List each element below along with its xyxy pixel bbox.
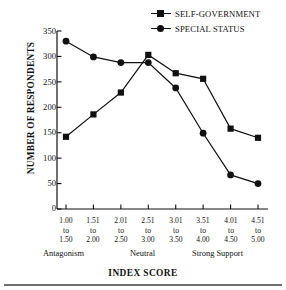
data-point [63,134,69,140]
chart-figure: SELF-GOVERNMENT SPECIAL STATUS NUMBER OF… [0,0,286,290]
category-label-antagonism: Antagonism [43,249,84,258]
data-point [200,130,207,137]
data-point [173,70,179,76]
data-point [145,52,151,58]
data-point [255,135,261,141]
data-point [117,59,124,66]
category-label-strong-support: Strong Support [192,249,243,258]
series-self-government [63,52,261,141]
data-point [255,180,262,187]
data-point [227,126,233,132]
category-label-neutral: Neutral [130,249,155,258]
x-axis-title: INDEX SCORE [0,268,286,278]
plot-area [0,0,286,290]
data-point [90,54,97,61]
data-point [63,38,70,45]
footer-divider [4,284,282,286]
data-point [172,85,179,92]
data-point [90,111,96,117]
data-series-layer [63,38,262,187]
data-point [145,59,152,66]
data-point [118,89,124,95]
data-point [200,76,206,82]
x-tick-label: 4.51 to 5.00 [242,216,274,245]
data-point [227,172,234,179]
axis-lines [57,31,268,209]
